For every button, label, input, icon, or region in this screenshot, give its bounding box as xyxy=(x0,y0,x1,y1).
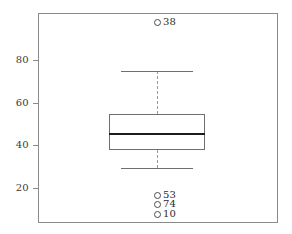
whisker-upper xyxy=(157,71,158,115)
median-line xyxy=(109,133,205,135)
y-axis-tick-mark xyxy=(33,103,39,104)
whisker-cap-upper xyxy=(121,71,193,72)
outlier-marker-icon xyxy=(154,211,161,218)
boxplot-figure: 20406080 38537410 xyxy=(0,0,292,234)
y-axis-tick: 80 xyxy=(0,60,38,61)
y-axis-tick-label: 40 xyxy=(16,138,29,151)
outlier-label: 10 xyxy=(163,207,176,220)
outlier-label: 38 xyxy=(163,15,176,28)
outlier-marker-icon xyxy=(154,201,161,208)
y-axis-tick-label: 20 xyxy=(16,181,29,194)
y-axis-tick-mark xyxy=(33,60,39,61)
y-axis-tick: 20 xyxy=(0,188,38,189)
y-axis-tick-mark xyxy=(33,145,39,146)
y-axis-tick-mark xyxy=(33,188,39,189)
whisker-cap-lower xyxy=(121,168,193,169)
y-axis-tick: 40 xyxy=(0,145,38,146)
y-axis-tick-label: 60 xyxy=(16,96,29,109)
outlier-marker-icon xyxy=(154,19,161,26)
y-axis-tick-label: 80 xyxy=(16,53,29,66)
y-axis-tick: 60 xyxy=(0,103,38,104)
whisker-lower xyxy=(157,150,158,168)
